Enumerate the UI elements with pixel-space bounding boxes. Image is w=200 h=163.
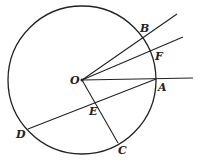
ray-OF bbox=[82, 37, 183, 80]
label-D: D bbox=[15, 128, 26, 141]
segment-OC bbox=[82, 80, 118, 143]
label-B: B bbox=[139, 22, 149, 35]
label-A: A bbox=[157, 81, 167, 94]
label-C: C bbox=[118, 144, 127, 157]
chord-DA bbox=[28, 79, 156, 129]
geometry-diagram: OABFCDE bbox=[0, 0, 200, 163]
center-point bbox=[81, 79, 84, 82]
label-O: O bbox=[70, 74, 80, 87]
ray-OA bbox=[82, 78, 193, 80]
label-E: E bbox=[88, 105, 98, 118]
label-F: F bbox=[154, 50, 164, 63]
